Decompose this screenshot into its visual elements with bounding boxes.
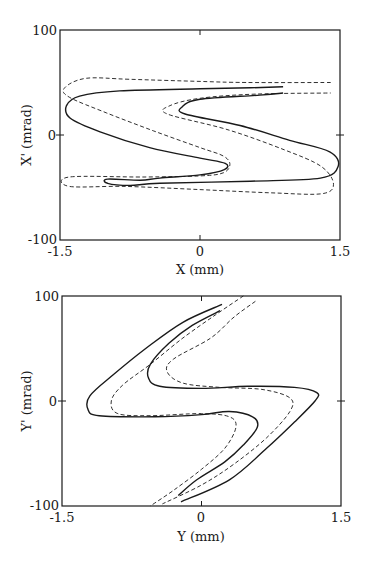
y-tick-label: -100 <box>30 498 59 513</box>
y-axis-label: Y' (mrad) <box>19 370 34 432</box>
x-tick-label: 1.5 <box>331 510 352 525</box>
x-axis-label: Y (mm) <box>176 529 225 544</box>
phase-space-plot-y: -1.5 0 1.5 -100 0 100 Y (mm) Y' (mrad) <box>19 289 351 544</box>
y-tick-label: 100 <box>34 289 59 304</box>
curve-solid <box>66 87 339 186</box>
tick-marks <box>56 30 344 240</box>
y-tick-label: -100 <box>28 232 57 247</box>
curve-solid <box>87 304 258 495</box>
phase-space-plot-x: -1.5 0 1.5 -100 0 100 X (mm) X' (mrad) <box>19 23 350 277</box>
curves <box>87 296 319 506</box>
y-tick-label: 0 <box>48 128 56 143</box>
figure: -1.5 0 1.5 -100 0 100 X (mm) X' (mrad) -… <box>0 0 366 569</box>
x-axis-label: X (mm) <box>176 262 224 277</box>
plot-frame <box>62 296 341 506</box>
curve-solid-2 <box>147 311 318 502</box>
x-tick-label: 0 <box>196 244 204 259</box>
plot-frame <box>60 30 340 240</box>
tick-marks <box>58 296 345 506</box>
curve-dashed <box>61 78 333 195</box>
y-tick-label: 100 <box>32 23 57 38</box>
y-axis-label: X' (mrad) <box>19 104 34 166</box>
x-tick-label: 0 <box>197 510 205 525</box>
curves <box>61 78 338 195</box>
x-tick-label: 1.5 <box>330 244 351 259</box>
y-tick-label: 0 <box>49 394 57 409</box>
